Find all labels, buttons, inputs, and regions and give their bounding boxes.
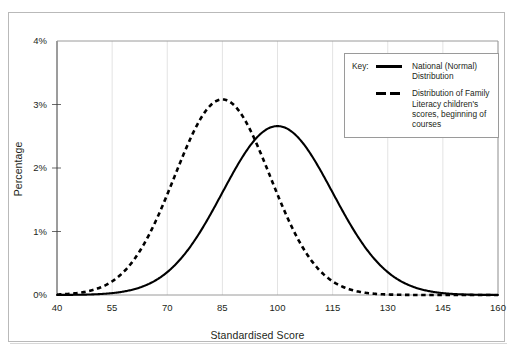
- x-tick-label-160: 160: [478, 302, 515, 313]
- x-tick-label-85: 85: [202, 302, 242, 313]
- x-tick-label-115: 115: [313, 302, 353, 313]
- legend-label-family-literacy: Distribution of Family Literacy children…: [412, 88, 491, 129]
- figure-drop-shadow: [10, 343, 507, 344]
- y-tick-label-4: 4%: [13, 35, 47, 46]
- y-tick-label-0: 0%: [13, 289, 47, 300]
- x-tick-label-40: 40: [37, 302, 77, 313]
- x-tick-label-70: 70: [147, 302, 187, 313]
- y-tick-label-1: 1%: [13, 226, 47, 237]
- y-tick-label-3: 3%: [13, 99, 47, 110]
- x-tick-label-145: 145: [423, 302, 463, 313]
- solid-line-swatch: [374, 61, 404, 71]
- legend-entry-national: Key: National (Normal) Distribution: [352, 61, 491, 81]
- x-tick-label-100: 100: [258, 302, 298, 313]
- chart-legend: Key: National (Normal) Distribution Dist…: [344, 53, 499, 138]
- chart-figure-frame: 40557085100115130145160 0%1%2%3%4% Key: …: [8, 12, 505, 342]
- legend-entry-family-literacy: Distribution of Family Literacy children…: [352, 88, 491, 129]
- legend-label-national: National (Normal) Distribution: [412, 61, 491, 81]
- x-tick-label-55: 55: [92, 302, 132, 313]
- dashed-line-swatch: [374, 88, 404, 98]
- x-axis-title: Standardised Score: [0, 329, 515, 341]
- y-axis-title: Percentage: [12, 129, 24, 209]
- x-tick-label-130: 130: [368, 302, 408, 313]
- legend-key-label: Key:: [352, 61, 374, 71]
